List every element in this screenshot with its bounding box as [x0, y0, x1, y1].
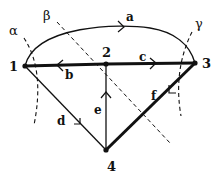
graph-diagram: 1 2 3 4 a b c d e f α β γ: [0, 0, 221, 178]
arrow-d-icon: [74, 118, 80, 124]
edge-label-f: f: [151, 89, 157, 103]
node-label-4: 4: [107, 159, 116, 174]
cut-beta: [57, 22, 170, 143]
cut-label-alpha: α: [9, 23, 18, 38]
node-label-3: 3: [202, 56, 211, 71]
edge-label-b: b: [65, 68, 73, 82]
node-label-2: 2: [102, 45, 111, 60]
node-1: [22, 63, 27, 68]
cut-label-beta: β: [43, 8, 51, 23]
edge-label-c: c: [139, 50, 146, 64]
edge-label-d: d: [57, 114, 66, 128]
node-2: [103, 61, 108, 66]
edge-label-a: a: [126, 10, 134, 24]
node-4: [103, 147, 108, 152]
edge-c: [106, 63, 195, 64]
node-3: [192, 60, 197, 65]
cut-label-gamma: γ: [195, 16, 203, 31]
edge-b: [25, 64, 106, 66]
node-label-1: 1: [9, 59, 18, 74]
edge-label-e: e: [94, 103, 102, 117]
edge-f: [106, 63, 195, 150]
cut-alpha: [24, 38, 38, 125]
